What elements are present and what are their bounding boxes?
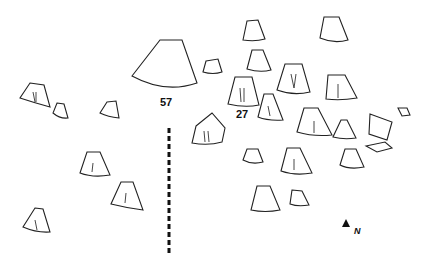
feature-west-2 <box>53 103 68 118</box>
feature-small-1 <box>203 59 222 74</box>
feature-central-2 <box>258 94 283 120</box>
feature-top-1 <box>243 20 265 41</box>
feature-west-5 <box>111 182 143 210</box>
feature-central-1 <box>277 64 310 94</box>
feature-west-4 <box>80 152 110 176</box>
feature-27 <box>228 77 259 106</box>
feature-south-5 <box>290 190 309 206</box>
feature-south-3 <box>340 149 364 168</box>
feature-south-2 <box>281 148 312 174</box>
feature-57-label: 57 <box>160 96 172 108</box>
feature-27-label: 27 <box>236 108 248 120</box>
north-arrow-icon <box>342 219 350 227</box>
feature-top-2 <box>320 17 348 42</box>
feature-central-3 <box>326 75 357 100</box>
feature-south-4 <box>251 186 280 212</box>
feature-ruined <box>369 114 392 140</box>
feature-west-3 <box>100 101 119 118</box>
feature-57 <box>132 40 197 87</box>
north-label: N <box>354 226 361 236</box>
feature-west-1 <box>20 83 50 107</box>
feature-south-1 <box>243 149 263 163</box>
feature-central-5 <box>333 120 356 139</box>
feature-small-2 <box>247 50 271 71</box>
feature-central-4 <box>297 108 332 136</box>
